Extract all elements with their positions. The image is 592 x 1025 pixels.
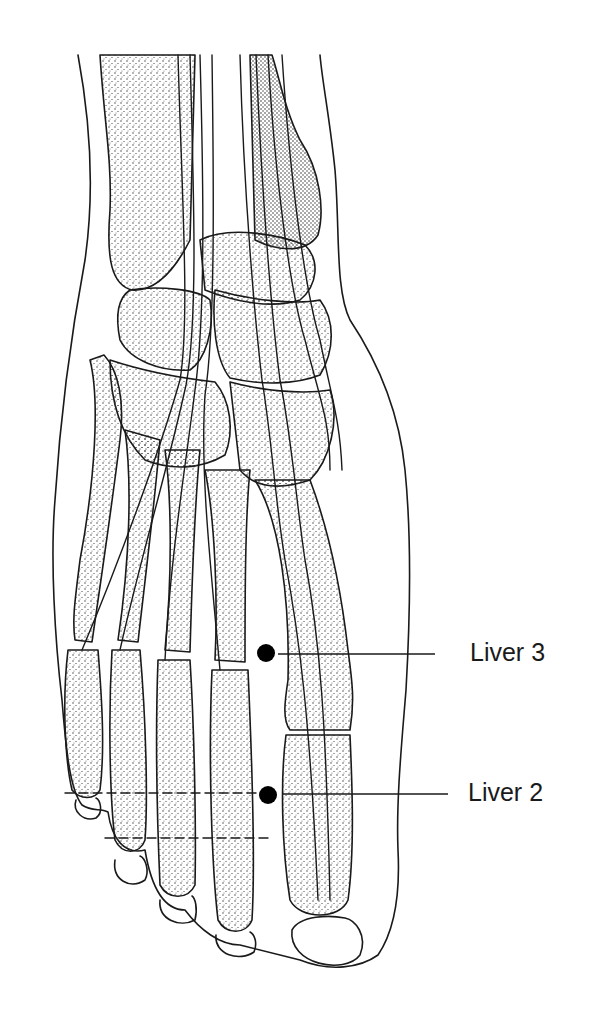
metatarsal-2 <box>205 470 250 662</box>
toenail-4 <box>115 856 147 884</box>
label-liver-3: Liver 3 <box>470 638 545 667</box>
liver-2-dot <box>259 786 277 804</box>
metatarsal-5 <box>74 355 122 642</box>
toe-3 <box>157 660 196 896</box>
foot-illustration <box>0 0 592 1025</box>
toe-5 <box>65 650 103 798</box>
liver-3-dot <box>257 644 275 662</box>
navicular <box>118 288 212 370</box>
toe-2 <box>210 670 253 931</box>
toenail-1 <box>292 916 363 965</box>
cuboid <box>214 290 331 383</box>
label-liver-2: Liver 2 <box>468 778 543 807</box>
tibia-bone <box>100 55 195 290</box>
toe-4 <box>110 650 147 851</box>
